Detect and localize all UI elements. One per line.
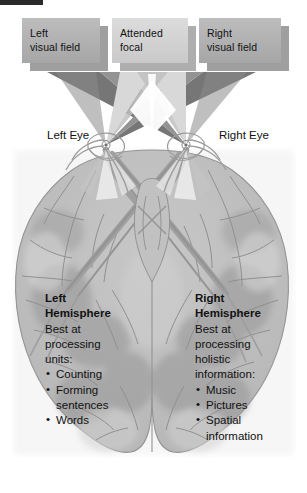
- right-hemisphere-body-3: holistic: [195, 352, 263, 367]
- field-box-left-visual-field[interactable]: Left visual field: [22, 18, 100, 63]
- top-crop-bar: [0, 0, 43, 5]
- right-bullet-2-line-1: Pictures: [206, 399, 248, 411]
- field-box-left-line-1: Left: [30, 27, 93, 40]
- list-item: • Words: [45, 413, 111, 428]
- field-box-left-line-2: visual field: [30, 41, 93, 54]
- right-hemisphere-heading-1: Right: [195, 291, 263, 306]
- left-hemisphere-body-3: units:: [45, 352, 111, 367]
- list-item: • Pictures: [195, 398, 263, 413]
- list-item: • Forming sentences: [45, 383, 111, 414]
- left-hemisphere-heading-2: Hemisphere: [45, 306, 111, 321]
- list-item: • Counting: [45, 367, 111, 382]
- right-hemisphere-annotation: Right Hemisphere Best at processing holi…: [195, 291, 263, 444]
- right-hemisphere-bullet-list: • Music • Pictures • Spatial information: [195, 383, 263, 444]
- left-hemisphere-body-1: Best at: [45, 322, 111, 337]
- bullet-glyph: •: [46, 366, 50, 381]
- right-bullet-3-line-1: Spatial: [206, 414, 241, 426]
- right-bullet-3-line-2: information: [206, 429, 263, 444]
- left-bullet-3-line-1: Words: [56, 414, 89, 426]
- right-eye-line-1: Right: [219, 129, 246, 141]
- field-box-right-line-1: Right: [207, 27, 274, 40]
- right-bullet-1-line-1: Music: [206, 384, 236, 396]
- left-hemisphere-body-2: processing: [45, 337, 111, 352]
- right-eye-line-2: Eye: [249, 129, 269, 141]
- list-item: • Spatial information: [195, 413, 263, 444]
- right-hemisphere-body-4: information:: [195, 367, 263, 382]
- field-box-attended-focal[interactable]: Attended focal: [112, 18, 188, 63]
- right-hemisphere-heading-2: Hemisphere: [195, 306, 263, 321]
- left-hemisphere-annotation: Left Hemisphere Best at processing units…: [45, 291, 111, 429]
- left-bullet-2-line-1: Forming: [56, 384, 98, 396]
- bullet-glyph: •: [46, 412, 50, 427]
- left-hemisphere-bullet-list: • Counting • Forming sentences • Words: [45, 367, 111, 428]
- bullet-glyph: •: [196, 397, 200, 412]
- field-box-mid-line-2: focal: [120, 41, 181, 54]
- field-box-right-visual-field[interactable]: Right visual field: [199, 18, 281, 63]
- bullet-glyph: •: [46, 382, 50, 397]
- left-eye-line-2: Eye: [69, 129, 89, 141]
- left-eye-line-1: Left: [47, 129, 66, 141]
- list-item: • Music: [195, 383, 263, 398]
- field-box-mid-line-1: Attended: [120, 27, 181, 40]
- bullet-glyph: •: [196, 382, 200, 397]
- label-left-eye: Left Eye: [47, 128, 89, 143]
- left-bullet-2-line-2: sentences: [56, 398, 111, 413]
- left-hemisphere-heading-1: Left: [45, 291, 111, 306]
- label-right-eye: Right Eye: [219, 128, 269, 143]
- bullet-glyph: •: [196, 412, 200, 427]
- figure-canvas: Left visual field Attended focal Right v…: [0, 0, 307, 493]
- right-hemisphere-body-1: Best at: [195, 322, 263, 337]
- left-bullet-1-line-1: Counting: [56, 368, 102, 380]
- field-box-right-line-2: visual field: [207, 41, 274, 54]
- right-hemisphere-body-2: processing: [195, 337, 263, 352]
